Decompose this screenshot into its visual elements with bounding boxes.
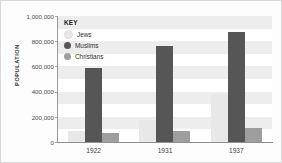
bar-jews-1931 xyxy=(139,120,156,142)
legend-items: JewsMuslimsChristians xyxy=(64,29,140,62)
y-axis-tick-label: 1,000,000 xyxy=(0,13,54,20)
legend-item-christians[interactable]: Christians xyxy=(64,51,140,62)
legend-item-jews[interactable]: Jews xyxy=(64,29,140,40)
bar-group-1937 xyxy=(201,16,272,142)
y-axis-tick-label: 800,000 xyxy=(0,38,54,45)
bar-muslims-1922 xyxy=(85,68,102,142)
legend: KEY JewsMuslimsChristians xyxy=(64,19,140,62)
legend-label: Jews xyxy=(77,31,92,38)
bar-group-1931 xyxy=(129,16,200,142)
x-axis-tick-label-1931: 1931 xyxy=(129,147,200,154)
y-axis-tick-label: 200,000 xyxy=(0,114,54,121)
x-axis-tick-label-1922: 1922 xyxy=(58,147,129,154)
legend-swatch-christians-icon xyxy=(64,53,71,60)
legend-title: KEY xyxy=(64,19,140,26)
bar-jews-1937 xyxy=(211,94,228,143)
population-bar-chart: POPULATION 0200,000400,000600,000800,000… xyxy=(0,0,282,163)
bar-jews-1922 xyxy=(68,131,85,142)
bar-muslims-1937 xyxy=(228,32,245,142)
bar-christians-1931 xyxy=(173,131,190,142)
bar-christians-1922 xyxy=(102,133,119,142)
x-axis-line xyxy=(57,142,273,143)
bar-christians-1937 xyxy=(245,128,262,142)
y-axis-tick-label: 600,000 xyxy=(0,63,54,70)
y-axis-tick-label: 0 xyxy=(0,139,54,146)
legend-label: Christians xyxy=(75,53,103,60)
legend-item-muslims[interactable]: Muslims xyxy=(64,40,140,51)
legend-swatch-jews-icon xyxy=(64,30,73,39)
y-axis-tick-label: 400,000 xyxy=(0,88,54,95)
legend-swatch-muslims-icon xyxy=(64,42,71,49)
legend-label: Muslims xyxy=(75,42,98,49)
x-axis-tick-label-1937: 1937 xyxy=(201,147,272,154)
bar-muslims-1931 xyxy=(156,46,173,142)
